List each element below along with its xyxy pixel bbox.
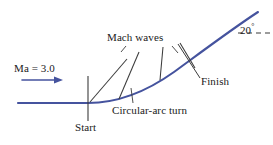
mach-waves-leader-right [172,46,178,53]
mach-wave-line-2 [119,52,139,99]
mach-wave-line-4 [180,43,195,68]
mach-number-label: Ma = 3.0 [14,63,55,74]
mach-waves-leader-left [121,46,126,52]
degree-sign: ° [251,22,254,31]
flow-wall-curve [18,12,258,103]
supersonic-turn-figure: Ma = 3.0 Mach waves Start Circular-arc t… [0,0,273,145]
turn-angle-value: 20 [240,24,251,36]
turn-angle-label: 20° [240,23,255,36]
mach-waves-label: Mach waves [107,32,163,43]
finish-label: Finish [201,76,229,87]
start-label: Start [75,122,96,133]
mach-wave-line-1 [90,59,127,102]
flow-direction-arrow [22,77,63,84]
mach-wave-line-3 [160,47,163,80]
mach-waves-leader-lines [121,46,178,53]
mach-wave-lines [90,43,195,102]
finish-leader-line [178,44,200,78]
circular-arc-turn-label: Circular-arc turn [112,105,187,116]
